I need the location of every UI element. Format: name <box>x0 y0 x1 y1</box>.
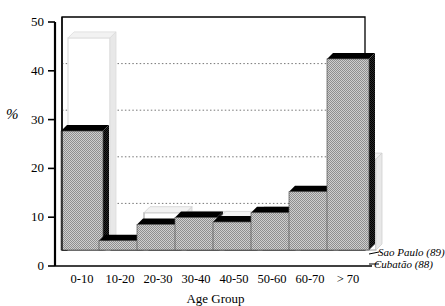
legend-item-sao-paulo: Sao Paulo (89) <box>378 246 445 258</box>
y-tick-label-50: 50 <box>18 14 44 30</box>
legend-item-cubatao: Cubatão (88) <box>374 258 433 270</box>
x-tick-label-gt-70: > 70 <box>321 272 375 287</box>
bar-group-0-10 <box>61 32 116 250</box>
x-axis-title: Age Group <box>0 291 431 306</box>
y-axis <box>48 17 62 266</box>
bar-group-gt-70 <box>327 53 382 250</box>
y-tick-label-20: 20 <box>18 160 44 176</box>
y-tick-label-0: 0 <box>18 258 44 274</box>
y-tick-label-10: 10 <box>18 209 44 225</box>
y-tick-label-40: 40 <box>18 63 44 79</box>
y-tick-label-30: 30 <box>18 112 44 128</box>
y-axis-unit-label: % <box>6 106 19 123</box>
